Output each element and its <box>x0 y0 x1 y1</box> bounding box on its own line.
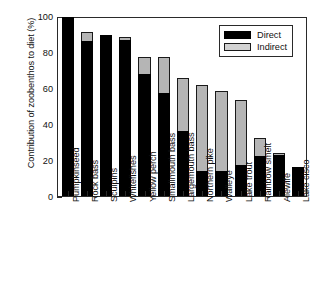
x-tick-label: Largemouth bass <box>186 133 196 203</box>
x-tick-label: Northern pike <box>205 148 215 202</box>
x-tick-label: Smallmouth bass <box>167 133 177 202</box>
x-tick-label: Lake trout <box>244 162 254 202</box>
y-axis-title: Contribution of zoobenthos to diet (%) <box>26 0 36 193</box>
x-tick-mark <box>87 191 88 196</box>
x-tick-mark <box>298 191 299 196</box>
x-tick-mark <box>241 191 242 196</box>
legend-swatch-direct <box>224 31 251 39</box>
x-tick-label: Lake cisco <box>301 160 311 202</box>
x-tick-label: Alewife <box>282 173 292 202</box>
x-tick-mark <box>202 191 203 196</box>
x-tick-label: Whitefishes <box>128 156 138 202</box>
y-tick-label: 40 <box>43 120 53 130</box>
x-tick-mark <box>221 191 222 196</box>
x-tick-mark <box>145 191 146 196</box>
x-tick-label: Rock bass <box>90 160 100 202</box>
y-tick-label: 0 <box>48 192 53 202</box>
x-tick-label: Sculpins <box>109 168 119 202</box>
x-tick-mark <box>68 191 69 196</box>
x-tick-label: Yellow perch <box>148 151 158 202</box>
x-tick-mark <box>164 191 165 196</box>
x-tick-mark <box>106 191 107 196</box>
x-tick-label: Rainbow smelt <box>263 143 273 202</box>
y-tick-label: 60 <box>43 84 53 94</box>
x-tick-mark <box>279 191 280 196</box>
legend-item-direct: Direct <box>224 29 287 41</box>
y-tick-label: 20 <box>43 156 53 166</box>
x-tick-mark <box>125 191 126 196</box>
legend-item-indirect: Indirect <box>224 41 287 53</box>
y-tick-label: 80 <box>43 48 53 58</box>
x-tick-mark <box>183 191 184 196</box>
legend-label-direct: Direct <box>257 30 281 40</box>
x-tick-label: Walleye <box>224 170 234 202</box>
y-tick-label: 100 <box>38 12 53 22</box>
x-tick-label: Pumpkinseed <box>71 147 81 202</box>
chart-figure: Contribution of zoobenthos to diet (%) 0… <box>0 0 322 299</box>
x-tick-mark <box>260 191 261 196</box>
y-tick-mark <box>57 197 62 198</box>
chart-legend: Direct Indirect <box>219 25 293 57</box>
legend-swatch-indirect <box>224 43 251 51</box>
legend-label-indirect: Indirect <box>257 42 287 52</box>
